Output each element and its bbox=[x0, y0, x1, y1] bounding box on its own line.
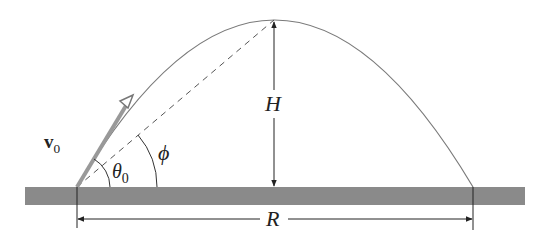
velocity-arrowhead bbox=[120, 95, 133, 108]
theta-symbol: θ bbox=[112, 160, 122, 182]
height-label: H bbox=[265, 93, 281, 115]
dashed-line-to-apex bbox=[77, 20, 274, 187]
velocity-subscript: 0 bbox=[54, 141, 61, 156]
range-label: R bbox=[266, 208, 279, 230]
ground bbox=[25, 187, 525, 205]
phi-label: ϕ bbox=[158, 142, 169, 164]
theta-arc bbox=[94, 159, 110, 187]
velocity-symbol: v bbox=[44, 131, 54, 152]
phi-arc bbox=[138, 135, 157, 187]
theta-subscript: 0 bbox=[122, 171, 129, 186]
velocity-label: v0 bbox=[44, 132, 60, 155]
theta-label: θ0 bbox=[112, 161, 129, 186]
